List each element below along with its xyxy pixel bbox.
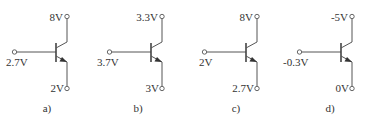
emitter-voltage-label: 3V	[146, 82, 160, 94]
npn-transistor-symbol	[107, 14, 164, 90]
npn-transistor-symbol	[202, 14, 259, 90]
base-voltage-label: 2V	[199, 56, 213, 68]
collector-voltage-label: 8V	[240, 11, 254, 23]
circuit-caption: c)	[232, 102, 241, 115]
circuit-caption: b)	[133, 102, 143, 115]
collector-voltage-label: 3.3V	[136, 11, 158, 23]
transistor-circuits-figure: 8V 2.7V 2V a) 3.3V 3.7V 3V b) 8V 2V 2.7V…	[0, 0, 382, 123]
circuit-caption: a)	[43, 102, 52, 115]
npn-transistor-symbol	[297, 14, 354, 90]
circuit-d: -5V -0.3V 0V d)	[283, 11, 354, 115]
circuit-b: 3.3V 3.7V 3V b)	[97, 11, 164, 115]
collector-voltage-label: 8V	[50, 11, 64, 23]
npn-transistor-symbol	[12, 14, 69, 90]
base-voltage-label: 2.7V	[6, 56, 28, 68]
circuit-caption: d)	[325, 102, 335, 115]
base-voltage-label: 3.7V	[97, 56, 119, 68]
circuit-c: 8V 2V 2.7V c)	[199, 11, 259, 115]
emitter-voltage-label: 0V	[336, 82, 350, 94]
circuit-a: 8V 2.7V 2V a)	[6, 11, 69, 115]
collector-voltage-label: -5V	[331, 11, 348, 23]
emitter-voltage-label: 2V	[51, 82, 65, 94]
emitter-voltage-label: 2.7V	[232, 82, 254, 94]
base-voltage-label: -0.3V	[283, 56, 308, 68]
